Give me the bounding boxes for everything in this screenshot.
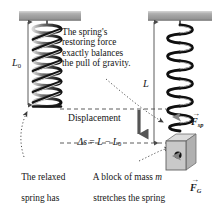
relaxed-note-line2: spring has [21,193,59,203]
ceiling-support-right [148,11,212,21]
stretched-length-label: L [143,78,149,89]
stretched-spring [168,21,193,132]
spring-force-subscript: sp [198,121,204,128]
restoring-force-note: The spring's restoring force exactly bal… [62,27,146,69]
relaxed-note-line1: The relaxed [21,172,65,182]
displacement-caption: Displacement [68,113,121,124]
spring-force-diagram: The spring's restoring force exactly bal… [0,0,218,211]
vector-accent-sp: → [192,109,200,118]
spring-force-label: →Fsp [191,116,203,127]
minus-symbol: − [103,136,113,147]
vector-accent-g: → [191,175,199,184]
gravity-force-subscript: G [197,187,202,194]
leader-block-note [139,148,169,161]
relaxed-spring [33,21,61,107]
L0-subscript: 0 [118,140,121,147]
relaxed-spring-note: The relaxed spring has length L0. [12,162,82,211]
displacement-equation: Δs = L − L0 [68,126,121,158]
equals-symbol: = [87,136,97,147]
relaxed-length-symbol: L [12,57,18,68]
relaxed-length-subscript: 0 [18,62,21,69]
gravity-force-label: →FG [190,182,201,193]
ceiling-support-left [19,11,81,21]
block-note-line1-pre: A block of mass [93,172,156,182]
block-note-line2: stretches the spring [93,193,165,203]
block-note: A block of mass m stretches the spring t… [84,162,168,211]
relaxed-length-label: L0 [12,57,21,68]
leader-relaxed-spring [21,112,27,157]
mass-symbol: m [155,172,162,182]
